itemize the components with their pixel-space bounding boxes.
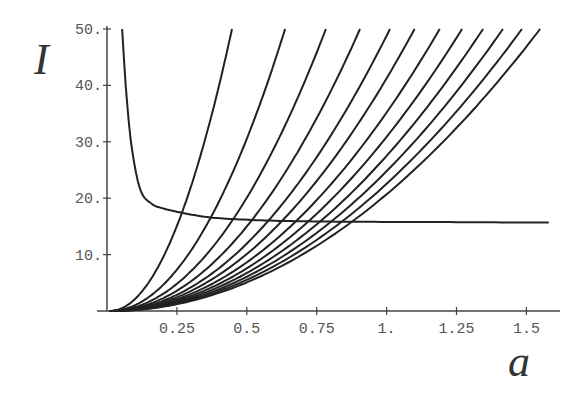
x-tick-label: 1. <box>378 321 396 338</box>
curve-increasing-1 <box>110 29 232 311</box>
y-tick-label: 20. <box>75 191 102 208</box>
curve-increasing-11 <box>110 29 522 311</box>
curve-increasing-5 <box>110 29 390 311</box>
curve-increasing-9 <box>110 29 483 311</box>
x-tick-label: 0.75 <box>299 321 335 338</box>
curve-increasing-10 <box>110 29 503 311</box>
chart: 0.250.50.751.1.251.5 10.20.30.40.50. I a <box>0 0 588 395</box>
x-axis-label: a <box>508 337 530 386</box>
x-tick-label: 0.25 <box>159 321 195 338</box>
curves <box>110 29 549 311</box>
x-tick-label: 1.5 <box>513 321 540 338</box>
y-tick-label: 50. <box>75 22 102 39</box>
y-ticks: 10.20.30.40.50. <box>75 22 111 265</box>
y-tick-label: 30. <box>75 135 102 152</box>
y-tick-label: 40. <box>75 78 102 95</box>
curve-increasing-4 <box>110 29 360 311</box>
x-tick-label: 1.25 <box>438 321 474 338</box>
y-axis-label: I <box>33 35 51 84</box>
y-tick-label: 10. <box>75 248 102 265</box>
curve-decreasing <box>122 29 549 223</box>
x-tick-label: 0.5 <box>233 321 260 338</box>
